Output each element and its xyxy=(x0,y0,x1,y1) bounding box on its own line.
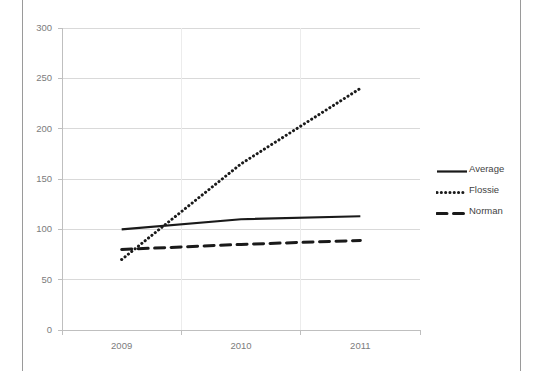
series-line-norman xyxy=(122,240,361,249)
y-tick-label: 100 xyxy=(12,223,52,234)
x-tick-label: 2009 xyxy=(92,340,152,351)
y-tick-label: 0 xyxy=(12,324,52,335)
series-line-average xyxy=(122,216,361,229)
y-tick-label: 250 xyxy=(12,72,52,83)
series-line-flossie xyxy=(122,88,361,259)
legend-label: Average xyxy=(468,163,504,174)
legend-label: Flossie xyxy=(468,184,499,195)
chart-figure: 050100150200250300 200920102011 AverageF… xyxy=(0,0,537,371)
legend-item-norman[interactable]: Norman xyxy=(436,200,516,221)
y-tick-label: 300 xyxy=(12,22,52,33)
legend-label: Norman xyxy=(468,205,503,216)
dotted-line-icon xyxy=(436,184,468,195)
horizontal-gridlines xyxy=(62,28,420,330)
chart-legend: AverageFlossieNorman xyxy=(436,158,516,221)
x-tick-marks xyxy=(62,330,420,335)
y-tick-label: 150 xyxy=(12,173,52,184)
y-tick-marks xyxy=(58,28,62,330)
x-tick-label: 2010 xyxy=(211,340,271,351)
y-tick-label: 50 xyxy=(12,274,52,285)
x-tick-label: 2011 xyxy=(330,340,390,351)
dashed-line-icon xyxy=(436,205,468,216)
data-series-group xyxy=(122,88,361,259)
solid-line-icon xyxy=(436,163,468,174)
legend-item-flossie[interactable]: Flossie xyxy=(436,179,516,200)
legend-item-average[interactable]: Average xyxy=(436,158,516,179)
y-tick-label: 200 xyxy=(12,123,52,134)
